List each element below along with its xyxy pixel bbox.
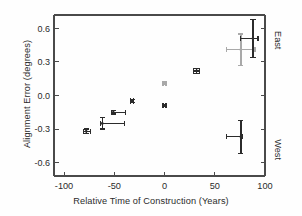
- scatter-plot-canvas: 0.60.30.0-0.3-0.6-100-50050100EastWest: [0, 0, 302, 216]
- data-point: [83, 129, 90, 134]
- data-marker: [195, 70, 198, 73]
- data-point: [162, 81, 167, 86]
- direction-label-east: East: [273, 31, 283, 50]
- data-marker: [101, 122, 104, 125]
- data-marker: [252, 37, 255, 40]
- y-tick-label: 0.0: [37, 91, 50, 101]
- data-point: [100, 118, 125, 129]
- data-marker: [163, 104, 166, 107]
- data-marker: [240, 136, 243, 139]
- data-point: [162, 103, 167, 108]
- data-point: [130, 98, 135, 103]
- data-marker: [112, 111, 115, 114]
- y-tick-label: -0.3: [34, 124, 50, 134]
- data-marker: [163, 82, 166, 85]
- data-point: [194, 68, 200, 74]
- data-point: [111, 110, 126, 115]
- x-tick-label: 0: [162, 181, 167, 191]
- chart-figure: 0.60.30.0-0.3-0.6-100-50050100EastWest R…: [0, 0, 302, 216]
- data-marker: [131, 100, 134, 103]
- y-tick-label: 0.3: [37, 57, 50, 67]
- x-tick-label: -50: [108, 181, 121, 191]
- x-tick-label: 100: [257, 181, 272, 191]
- y-tick-label: 0.6: [37, 24, 50, 34]
- x-tick-label: 50: [210, 181, 220, 191]
- x-axis-label: Relative Time of Construction (Years): [0, 196, 302, 206]
- y-tick-label: -0.6: [34, 158, 50, 168]
- data-point: [227, 120, 244, 154]
- x-tick-label: -100: [55, 181, 73, 191]
- direction-label-west: West: [273, 139, 283, 160]
- data-marker: [240, 48, 243, 51]
- data-marker: [85, 130, 88, 133]
- y-axis-label: Alignment Error (degrees): [22, 14, 32, 174]
